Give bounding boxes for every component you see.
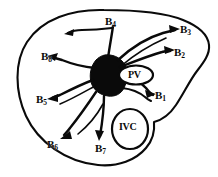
portal-vein-label: PV [128, 70, 141, 80]
segment-label-b5: B5 [36, 94, 47, 105]
segment-label-b4: B4 [105, 16, 116, 27]
segment-label-b1: B1 [155, 90, 166, 101]
liver-diagram: B4 B3 B2 B8 B5 B1 B6 B7 PV IVC [0, 0, 218, 177]
segment-label-b3: B3 [180, 24, 191, 35]
segment-label-b2: B2 [174, 47, 185, 58]
segment-label-b8: B8 [41, 51, 52, 62]
ivc-label: IVC [119, 122, 136, 132]
segment-label-b7: B7 [95, 143, 106, 154]
segment-label-b6: B6 [47, 139, 58, 150]
